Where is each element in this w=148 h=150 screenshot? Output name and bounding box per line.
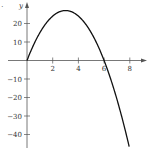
x-tick-label: 4 bbox=[76, 65, 81, 73]
chart: y24682010−10−20−30−40 bbox=[0, 0, 148, 150]
x-tick-label: 8 bbox=[128, 65, 132, 73]
tick-labels: y24682010−10−20−30−40 bbox=[7, 2, 132, 139]
y-tick-label: −10 bbox=[7, 76, 22, 84]
x-axis-arrow-icon bbox=[141, 59, 147, 63]
axes bbox=[8, 2, 147, 148]
y-axis-arrow-icon bbox=[25, 2, 29, 8]
tick-marks bbox=[24, 24, 130, 135]
y-tick-label: 20 bbox=[13, 20, 22, 28]
y-axis-label: y bbox=[18, 2, 24, 10]
y-tick-label: −20 bbox=[7, 94, 22, 102]
y-tick-label: 10 bbox=[13, 39, 22, 47]
data-curve bbox=[27, 11, 129, 147]
x-tick-label: 2 bbox=[50, 65, 54, 73]
y-tick-label: −30 bbox=[7, 113, 22, 121]
y-tick-label: −40 bbox=[7, 131, 22, 139]
